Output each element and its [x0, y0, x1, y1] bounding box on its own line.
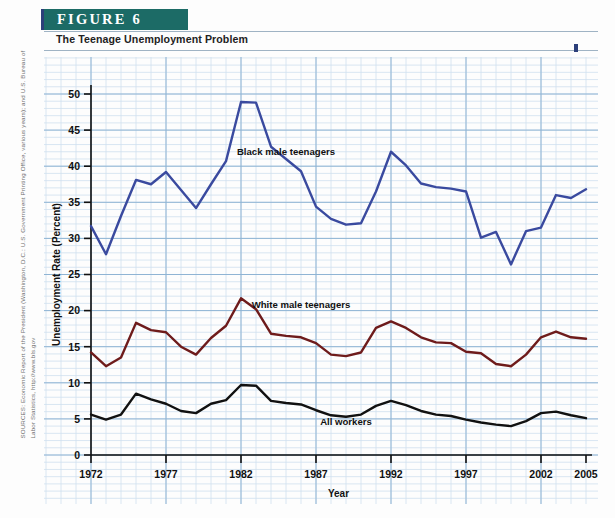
x-tick-label: 1972 [79, 468, 103, 480]
y-tick-label: 15 [68, 341, 80, 353]
series-label-1: Black male teenagers [237, 146, 335, 157]
chart-panel: 05101520253035404550 1972197719821987199… [44, 57, 598, 504]
x-axis-title: Year [328, 488, 349, 499]
line-chart: 05101520253035404550 1972197719821987199… [44, 57, 598, 504]
figure-container: SOURCES: Economic Report of the Presiden… [0, 0, 615, 518]
y-tick-label: 5 [74, 413, 80, 425]
y-tick-label: 50 [68, 88, 80, 100]
y-tick-label: 25 [68, 268, 80, 280]
y-tick-label: 40 [68, 160, 80, 172]
x-tick-label: 2005 [574, 468, 598, 480]
chart-background [44, 57, 598, 504]
y-tick-label: 10 [68, 377, 80, 389]
y-tick-label: 35 [68, 196, 80, 208]
y-tick-label: 30 [68, 232, 80, 244]
x-tick-label: 1977 [154, 468, 178, 480]
y-tick-label: 0 [74, 449, 80, 461]
figure-subtitle: The Teenage Unemployment Problem [56, 33, 248, 45]
figure-banner-label: FIGURE 6 [44, 11, 142, 28]
title-rule-top [44, 31, 598, 32]
figure-banner: FIGURE 6 [44, 9, 188, 30]
y-tick-label: 45 [68, 124, 80, 136]
x-tick-label: 1997 [454, 468, 478, 480]
title-rule-end-marker [574, 44, 578, 52]
x-tick-label: 1987 [304, 468, 328, 480]
source-line-2: Labor Statistics, http://www.bls.gov [27, 0, 37, 439]
title-rule-bottom [44, 50, 598, 51]
source-line-1: SOURCES: Economic Report of the Presiden… [19, 51, 26, 439]
series-label-3: All workers [320, 416, 372, 427]
x-tick-label: 2002 [529, 468, 553, 480]
y-tick-label: 20 [68, 304, 80, 316]
y-axis-title: Unemployment Rate (Percent) [51, 203, 62, 346]
x-tick-label: 1992 [379, 468, 403, 480]
x-tick-label: 1982 [229, 468, 253, 480]
series-label-2: White male teenagers [252, 299, 351, 310]
source-note: SOURCES: Economic Report of the Presiden… [18, 0, 37, 439]
